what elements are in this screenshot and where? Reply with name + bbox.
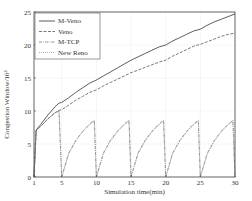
x-tick-label: 30 <box>232 179 240 187</box>
legend-label: Veno <box>58 28 73 36</box>
x-tick-label: 5 <box>60 179 64 187</box>
y-tick-label: 5 <box>28 141 32 149</box>
y-axis-label: Congestion Window/10³ <box>3 70 11 138</box>
legend-label: M-TCP <box>58 38 80 46</box>
legend-label: New Reno <box>58 49 88 57</box>
x-tick-label: 1 <box>32 179 36 187</box>
y-tick-label: 10 <box>24 108 32 116</box>
x-tick-label: 15 <box>128 179 136 187</box>
x-axis-label: Simulation time(min) <box>104 188 165 196</box>
x-tick-label: 10 <box>93 179 101 187</box>
legend: M-VenoVenoM-TCPNew Reno <box>35 13 100 59</box>
y-tick-label: 20 <box>24 42 32 50</box>
legend-label: M-Veno <box>58 17 81 25</box>
y-tick-label: 25 <box>24 9 32 17</box>
x-tick-label: 20 <box>162 179 170 187</box>
congestion-window-chart: 1510152025300510152025 Simulation time(m… <box>0 0 252 201</box>
x-tick-label: 25 <box>197 179 205 187</box>
y-tick-label: 15 <box>24 75 32 83</box>
y-tick-label: 0 <box>28 174 32 182</box>
